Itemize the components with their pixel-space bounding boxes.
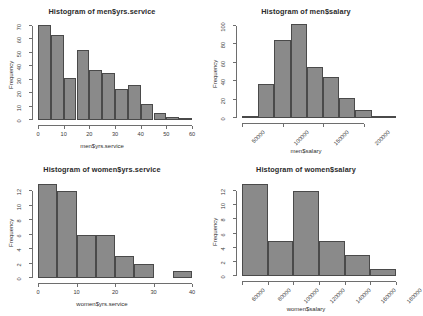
y-axis-tick-label: 8 bbox=[16, 214, 22, 228]
y-axis-title: Frequency bbox=[212, 218, 218, 246]
y-axis-tick-label: 20 bbox=[16, 87, 22, 101]
histogram-bar bbox=[64, 78, 77, 120]
x-axis-tick-label: 100000 bbox=[303, 287, 320, 304]
histogram-bar bbox=[355, 110, 371, 118]
y-axis-line bbox=[32, 191, 33, 278]
x-axis-tick bbox=[323, 124, 324, 127]
x-axis-tick-label: 200000 bbox=[373, 129, 390, 146]
histogram-bar bbox=[258, 84, 274, 118]
histogram-bar bbox=[173, 271, 192, 278]
y-axis-tick-label: 0 bbox=[16, 114, 22, 128]
x-axis-tick-label: 10 bbox=[65, 289, 89, 295]
x-axis-tick bbox=[242, 282, 243, 285]
histogram-bar bbox=[77, 50, 90, 120]
panel-title: Histogram of women$yrs.service bbox=[0, 165, 204, 174]
histogram-bar bbox=[307, 67, 323, 118]
x-axis-tick-label: 150000 bbox=[333, 129, 350, 146]
plot-area: 0102030405060700102030405060men$yrs.serv… bbox=[38, 26, 192, 120]
y-axis-tick bbox=[29, 119, 32, 120]
y-axis-tick bbox=[233, 190, 236, 191]
x-axis-tick-label: 160000 bbox=[380, 287, 397, 304]
y-axis-tick-label: 4 bbox=[16, 243, 22, 257]
histogram-bar bbox=[242, 116, 258, 118]
x-axis-tick bbox=[364, 124, 365, 127]
y-axis-tick bbox=[29, 92, 32, 93]
x-axis-tick bbox=[192, 284, 193, 287]
y-axis-tick bbox=[29, 234, 32, 235]
x-axis-tick bbox=[38, 126, 39, 129]
y-axis-tick bbox=[29, 263, 32, 264]
y-axis-tick-label: 12 bbox=[220, 185, 226, 199]
y-axis-tick bbox=[233, 25, 236, 26]
histogram-bar bbox=[319, 241, 345, 276]
y-axis-tick bbox=[29, 79, 32, 80]
y-axis-line bbox=[236, 191, 237, 276]
histogram-bar bbox=[166, 117, 179, 120]
y-axis-tick bbox=[233, 43, 236, 44]
y-axis-tick bbox=[233, 62, 236, 63]
x-axis-tick bbox=[242, 124, 243, 127]
y-axis-tick-label: 60 bbox=[220, 57, 226, 71]
y-axis-tick-label: 10 bbox=[220, 199, 226, 213]
y-axis-tick bbox=[29, 190, 32, 191]
x-axis-tick-label: 30 bbox=[103, 131, 127, 137]
histogram-bar bbox=[345, 255, 371, 276]
histogram-bar bbox=[141, 104, 154, 120]
histogram-bar bbox=[388, 116, 396, 118]
x-axis-tick-label: 100000 bbox=[292, 129, 309, 146]
y-axis-tick-label: 40 bbox=[220, 75, 226, 89]
y-axis-line bbox=[236, 26, 237, 118]
x-axis-title: women$salary bbox=[204, 306, 408, 312]
histogram-bar bbox=[89, 70, 102, 120]
y-axis-tick-label: 2 bbox=[16, 258, 22, 272]
histogram-bar bbox=[323, 77, 339, 118]
x-axis-tick-label: 120000 bbox=[328, 287, 345, 304]
x-axis-tick-label: 10 bbox=[52, 131, 76, 137]
panel-title: Histogram of men$salary bbox=[204, 7, 408, 16]
histogram-bar bbox=[134, 264, 153, 278]
histogram-bar bbox=[77, 235, 96, 278]
y-axis-tick bbox=[233, 80, 236, 81]
panel-men-salary: Histogram of men$salary 0204060801005000… bbox=[204, 0, 408, 158]
x-axis-tick-label: 60000 bbox=[251, 287, 266, 302]
x-axis-tick bbox=[77, 284, 78, 287]
x-axis-tick-label: 50 bbox=[154, 131, 178, 137]
y-axis-tick-label: 4 bbox=[220, 242, 226, 256]
histogram-bar bbox=[96, 235, 115, 278]
histogram-bar bbox=[339, 98, 355, 118]
x-axis-title: men$yrs.service bbox=[0, 143, 204, 149]
x-axis-tick-label: 30 bbox=[142, 289, 166, 295]
histogram-bar bbox=[115, 256, 134, 278]
y-axis-tick-label: 50 bbox=[16, 47, 22, 61]
histogram-bar bbox=[154, 113, 167, 120]
x-axis-tick bbox=[345, 282, 346, 285]
histogram-bar bbox=[57, 191, 76, 278]
y-axis-tick-label: 40 bbox=[16, 60, 22, 74]
y-axis-tick bbox=[233, 204, 236, 205]
x-axis-tick bbox=[319, 282, 320, 285]
x-axis-tick bbox=[283, 124, 284, 127]
y-axis-title: Frequency bbox=[8, 219, 14, 247]
histogram-bar bbox=[268, 241, 294, 276]
y-axis-tick-label: 12 bbox=[16, 185, 22, 199]
x-axis-tick bbox=[38, 284, 39, 287]
panel-title: Histogram of men$yrs.service bbox=[0, 7, 204, 16]
x-axis-tick-label: 80000 bbox=[276, 287, 291, 302]
x-axis-tick-label: 50000 bbox=[251, 129, 266, 144]
x-axis-tick bbox=[293, 282, 294, 285]
x-axis-tick-label: 140000 bbox=[354, 287, 371, 304]
histogram-bar bbox=[370, 269, 396, 276]
histogram-bar bbox=[38, 184, 57, 278]
x-axis-tick-label: 40 bbox=[129, 131, 153, 137]
y-axis-tick-label: 0 bbox=[220, 270, 226, 284]
x-axis-tick-label: 0 bbox=[26, 131, 50, 137]
y-axis-tick-label: 6 bbox=[220, 228, 226, 242]
histogram-bar bbox=[293, 191, 319, 276]
x-axis-tick bbox=[64, 126, 65, 129]
y-axis-tick bbox=[233, 275, 236, 276]
x-axis-tick bbox=[166, 126, 167, 129]
x-axis-tick bbox=[115, 284, 116, 287]
y-axis-tick-label: 0 bbox=[220, 112, 226, 126]
histogram-bar bbox=[51, 35, 64, 120]
x-axis-tick-label: 20 bbox=[103, 289, 127, 295]
